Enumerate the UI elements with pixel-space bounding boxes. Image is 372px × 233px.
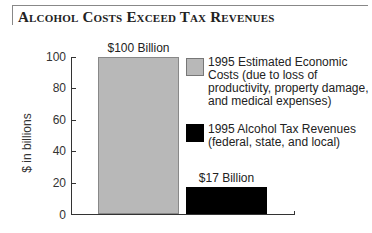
y-tick-label-40: 40: [36, 144, 66, 158]
y-tick-100: [71, 57, 76, 58]
legend-swatch-costs: [186, 58, 204, 76]
bar-tax-revenues: [186, 187, 267, 214]
legend-text-costs: 1995 Estimated Economic Costs (due to lo…: [208, 56, 369, 108]
legend-costs-line4: and medical expenses): [208, 95, 369, 108]
y-tick-60: [71, 120, 76, 121]
legend-swatch-tax: [186, 124, 204, 142]
y-tick-label-0: 0: [36, 208, 66, 222]
y-tick-20: [71, 183, 76, 184]
chart-title: Alcohol Costs Exceed Tax Revenues: [18, 9, 275, 26]
frame-left-border: [12, 5, 13, 25]
x-axis: [71, 214, 295, 215]
legend-text-tax: 1995 Alcohol Tax Revenues (federal, stat…: [208, 123, 356, 149]
bar-label-economic-costs: $100 Billion: [98, 41, 179, 55]
frame-top-border: [12, 5, 368, 6]
y-tick-label-60: 60: [36, 113, 66, 127]
y-tick-label-20: 20: [36, 176, 66, 190]
bar-economic-costs: [98, 57, 179, 214]
y-axis: [71, 57, 72, 215]
legend-tax-line2: (federal, state, and local): [208, 136, 356, 149]
y-tick-80: [71, 88, 76, 89]
bar-label-tax-revenues: $17 Billion: [186, 171, 267, 185]
x-axis-end-tick: [294, 211, 295, 215]
y-axis-title: $ in billions: [20, 103, 34, 183]
y-tick-40: [71, 151, 76, 152]
y-tick-label-80: 80: [36, 81, 66, 95]
y-tick-label-100: 100: [36, 50, 66, 64]
